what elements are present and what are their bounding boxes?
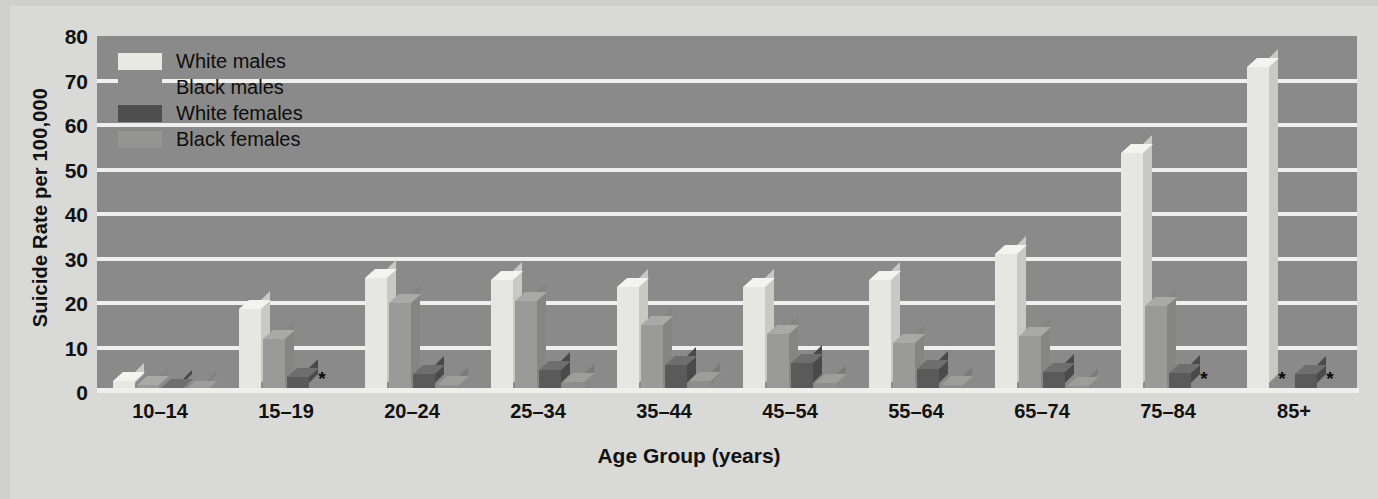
bar-bm [893, 334, 915, 392]
bar-top-face [815, 374, 847, 383]
bar-group [475, 36, 601, 392]
bar-wm [869, 271, 891, 392]
legend-item: Black females [118, 126, 448, 152]
x-tick-label: 20–24 [384, 400, 440, 423]
bar-face [1121, 153, 1143, 392]
y-tick-label: 80 [65, 26, 88, 47]
bar-bm [641, 316, 663, 392]
bar-wm [995, 245, 1017, 392]
bar-bm [389, 294, 411, 392]
bar-face [365, 278, 387, 392]
bar-group: * [1105, 36, 1231, 392]
x-axis-baseline [97, 388, 1359, 393]
x-tick-label: 45–54 [762, 400, 818, 423]
suppressed-marker: * [1278, 369, 1285, 388]
bar-wm [617, 278, 639, 392]
bar-bm [515, 292, 537, 392]
bar-top-face [1067, 377, 1099, 386]
bar-wm [239, 300, 261, 392]
bar-wm [365, 269, 387, 392]
suppressed-marker: * [1200, 369, 1207, 388]
legend-item: Black males [118, 74, 448, 100]
suppressed-marker: * [318, 369, 325, 388]
bar-face [1145, 306, 1167, 392]
bar-face [239, 309, 261, 392]
legend-label: White males [176, 50, 286, 73]
y-tick-label: 50 [65, 159, 88, 180]
y-tick-label: 60 [65, 115, 88, 136]
bar-face [263, 339, 285, 392]
bar-face [1247, 67, 1269, 392]
bar-face [491, 280, 513, 392]
bar-face [893, 343, 915, 392]
bar-face [869, 280, 891, 392]
bar-top-face [563, 373, 595, 382]
legend-swatch-icon [118, 105, 162, 122]
legend-swatch-icon [118, 131, 162, 148]
bar-group [727, 36, 853, 392]
bar-wm [491, 271, 513, 392]
page-edge-left [0, 0, 10, 499]
y-tick-label: 10 [65, 337, 88, 358]
bar-bm [263, 330, 285, 392]
y-tick-label: 70 [65, 70, 88, 91]
bar-face [743, 287, 765, 392]
bar-group: ** [1231, 36, 1357, 392]
legend-item: White females [118, 100, 448, 126]
legend-label: White females [176, 102, 303, 125]
x-tick-label: 10–14 [132, 400, 188, 423]
legend-item: White males [118, 48, 448, 74]
bar-face [389, 303, 411, 392]
y-tick-label: 30 [65, 248, 88, 269]
bar-face [995, 254, 1017, 392]
bar-bm [1145, 297, 1167, 392]
bar-wf [791, 354, 813, 392]
legend: White malesBlack malesWhite femalesBlack… [118, 48, 448, 152]
bar-face [1019, 336, 1041, 392]
x-tick-label: 85+ [1277, 400, 1311, 423]
bar-face [767, 334, 789, 392]
bar-top-face [941, 376, 973, 385]
bar-face [515, 301, 537, 392]
legend-label: Black males [176, 76, 284, 99]
bar-wm [1121, 144, 1143, 392]
y-tick-label: 40 [65, 204, 88, 225]
bar-group [853, 36, 979, 392]
x-tick-label: 75–84 [1140, 400, 1196, 423]
page-edge-top [0, 0, 1378, 6]
bar-bm [767, 325, 789, 392]
x-axis-title: Age Group (years) [0, 444, 1378, 468]
bar-top-face [437, 376, 469, 385]
y-tick-label: 0 [76, 382, 88, 403]
suppressed-marker: * [1326, 369, 1333, 388]
legend-swatch-icon [118, 53, 162, 70]
y-tick-label: 20 [65, 293, 88, 314]
y-axis-tick-labels: 01020304050607080 [40, 0, 88, 499]
bar-bm [1019, 327, 1041, 392]
x-tick-label: 25–34 [510, 400, 566, 423]
legend-label: Black females [176, 128, 301, 151]
bar-side-face [1269, 49, 1278, 383]
bar-wm [1247, 58, 1269, 392]
x-tick-label: 55–64 [888, 400, 944, 423]
bar-group [601, 36, 727, 392]
bar-face [617, 287, 639, 392]
x-tick-label: 35–44 [636, 400, 692, 423]
x-tick-label: 15–19 [258, 400, 314, 423]
bar-wm [743, 278, 765, 392]
bar-group [979, 36, 1105, 392]
bar-wf [665, 356, 687, 392]
bar-face [641, 325, 663, 392]
bar-chart: Suicide Rate per 100,000 010203040506070… [0, 0, 1378, 499]
x-tick-label: 65–74 [1014, 400, 1070, 423]
legend-swatch-icon [118, 79, 162, 96]
